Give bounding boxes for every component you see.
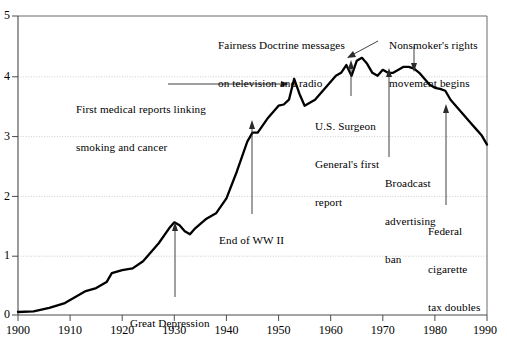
y-tick-label-5: 5	[0, 8, 10, 23]
annotation-federal-tax-doubles-line2: cigarette	[428, 263, 480, 276]
x-tick-label-1900: 1900	[0, 323, 38, 338]
annotation-great-depression: Great Depression	[130, 292, 210, 343]
annotation-surgeon-general-line3: report	[315, 196, 379, 209]
y-tick-label-3: 3	[0, 129, 10, 144]
annotation-surgeon-general-line1: U.S. Surgeon	[315, 120, 379, 133]
x-tick-label-1910: 1910	[50, 323, 90, 338]
y-tick-label-1: 1	[0, 248, 10, 263]
annotation-nonsmokers-rights-line1: Nonsmoker's rights	[389, 39, 478, 52]
annotation-fairness-doctrine-line1: Fairness Doctrine messages	[218, 39, 345, 52]
y-tick-label-0: 0	[0, 307, 10, 322]
x-tick-label-1950: 1950	[259, 323, 299, 338]
annotation-first-medical-reports-line2: smoking and cancer	[76, 141, 206, 154]
y-tick-label-4: 4	[0, 69, 10, 84]
x-tick-label-1960: 1960	[311, 323, 351, 338]
annotation-federal-tax-doubles-line3: tax doubles	[428, 301, 480, 314]
annotation-federal-tax-doubles-line1: Federal	[428, 225, 480, 238]
annotation-fairness-doctrine-line2: on television and radio	[218, 77, 345, 90]
y-axis-ticks	[12, 16, 18, 315]
annotation-nonsmokers-rights-line2: movement begins	[389, 77, 478, 90]
annotation-first-medical-reports-line1: First medical reports linking	[76, 103, 206, 116]
cigarette-consumption-chart: 5 4 3 2 1 0 1900 1910 1920 1930 1940 195…	[0, 0, 507, 343]
annotation-end-of-ww2-line1: End of WW II	[219, 234, 284, 247]
annotation-first-medical-reports: First medical reports linking smoking an…	[76, 78, 206, 179]
annotation-broadcast-ad-ban-line1: Broadcast	[385, 177, 436, 190]
annotation-surgeon-general: U.S. Surgeon General's first report	[315, 95, 379, 234]
x-axis-ticks	[18, 315, 487, 321]
x-tick-label-1940: 1940	[206, 323, 246, 338]
annotation-end-of-ww2: End of WW II	[219, 209, 284, 272]
annotation-federal-tax-doubles: Federal cigarette tax doubles	[428, 200, 480, 339]
x-tick-label-1970: 1970	[363, 323, 403, 338]
annotation-great-depression-line1: Great Depression	[130, 317, 210, 330]
annotation-surgeon-general-line2: General's first	[315, 158, 379, 171]
y-tick-label-2: 2	[0, 189, 10, 204]
annotation-nonsmokers-rights: Nonsmoker's rights movement begins	[389, 14, 478, 115]
